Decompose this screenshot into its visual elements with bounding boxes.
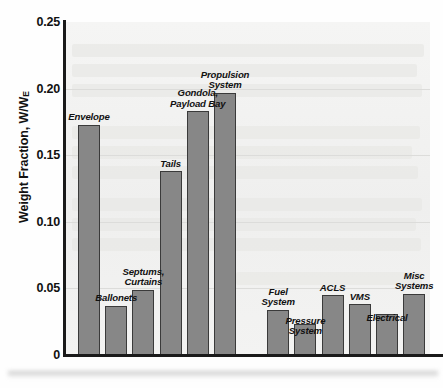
y-axis-tick-0.15: 0.15	[14, 148, 60, 162]
bar-label-septums-curtains: Septums, Curtains	[122, 267, 164, 288]
y-axis-line	[63, 20, 66, 357]
x-axis-line	[63, 354, 443, 357]
bar-ballonets	[105, 306, 127, 355]
scan-bleed-artifact	[72, 44, 424, 57]
bar-gondola-payload-bay	[187, 111, 209, 355]
bar-label-propulsion-system: Propulsion System	[201, 70, 250, 91]
scan-bleed-artifact	[72, 126, 420, 139]
plot-area: EnvelopeBallonetsSeptums, CurtainsTailsG…	[66, 22, 430, 355]
scan-bleed-artifact	[72, 198, 422, 211]
bar-label-ballonets: Ballonets	[95, 293, 137, 303]
bar-label-gondola-payload-bay: Gondola, Payload Bay	[170, 88, 225, 109]
bar-label-pressure-system: Pressure System	[285, 316, 325, 337]
gridline	[66, 288, 430, 289]
bar-label-envelope: Envelope	[68, 112, 109, 122]
bar-label-acls: ACLS	[320, 283, 346, 293]
bar-label-misc-systems: Misc Systems	[395, 271, 433, 292]
gridline	[66, 155, 430, 156]
bar-tails	[160, 171, 182, 355]
y-axis-tick-0.10: 0.10	[14, 215, 60, 229]
scan-bleed-artifact	[72, 166, 418, 179]
y-axis-tick-0.05: 0.05	[14, 281, 60, 295]
bar-envelope	[78, 125, 100, 355]
bar-misc-systems	[403, 294, 425, 355]
bar-label-fuel-system: Fuel System	[262, 287, 295, 308]
y-axis-tick-0.20: 0.20	[14, 82, 60, 96]
y-axis-tick-0.25: 0.25	[14, 15, 60, 29]
scan-bleed-artifact	[72, 218, 416, 231]
bar-label-vms: VMS	[350, 292, 370, 302]
gridline	[66, 222, 430, 223]
bar-label-electrical: Electrical	[366, 313, 407, 323]
y-axis-tick-labels: 00.050.100.150.200.25	[14, 0, 60, 388]
bar-propulsion-system	[214, 93, 236, 355]
scan-bleed-artifact	[72, 238, 421, 251]
bar-label-tails: Tails	[160, 159, 181, 169]
page-shadow	[8, 371, 438, 378]
y-axis-tick-0: 0	[14, 348, 60, 362]
scan-bleed-artifact	[72, 146, 412, 159]
weight-fraction-bar-chart: Weight Fraction, W/WE 00.050.100.150.200…	[0, 0, 443, 388]
